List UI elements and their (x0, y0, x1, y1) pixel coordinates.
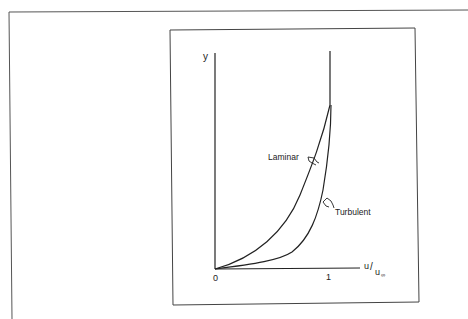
x-axis (215, 268, 360, 269)
x-label-numerator: u (364, 261, 369, 271)
x-label-denominator: u (375, 267, 380, 277)
x-label-infinity: ∞ (381, 272, 385, 278)
turbulent-arrow-icon (323, 198, 334, 208)
turbulent-curve (215, 105, 331, 269)
figure-stage: y 0 1 u / u ∞ Laminar Turbulent (0, 0, 468, 319)
x-label-slash: / (370, 261, 373, 272)
outer-frame-left (9, 12, 12, 319)
x-axis-label: u / u ∞ (364, 261, 385, 278)
x-tick-1: 1 (326, 272, 331, 282)
figure-box (170, 28, 419, 305)
outer-frame-top (9, 10, 468, 12)
x-tick-0: 0 (213, 273, 218, 283)
boundary-layer-diagram: y 0 1 u / u ∞ Laminar Turbulent (0, 0, 468, 319)
turbulent-label: Turbulent (335, 207, 371, 217)
laminar-label: Laminar (268, 152, 299, 162)
y-axis-label: y (203, 51, 208, 62)
